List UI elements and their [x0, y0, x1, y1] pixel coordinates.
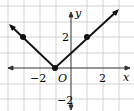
vertex-point [52, 65, 58, 71]
x-axis-arrow-icon [125, 66, 130, 70]
y-tick-neg2: −2 [57, 94, 73, 107]
y-tick-2: 2 [62, 31, 69, 44]
point-1-2 [84, 34, 90, 40]
point-neg3-2 [20, 34, 26, 40]
x-axis-left-arrow-icon [8, 66, 13, 70]
x-tick-2: 2 [99, 72, 106, 85]
origin-label: O [58, 72, 67, 85]
x-axis-label: x [123, 71, 130, 84]
y-axis-arrow-icon [69, 12, 73, 17]
y-axis-label: y [74, 7, 82, 20]
graph: y x O −2 2 2 −2 [0, 0, 134, 111]
x-tick-neg2: −2 [30, 72, 46, 85]
